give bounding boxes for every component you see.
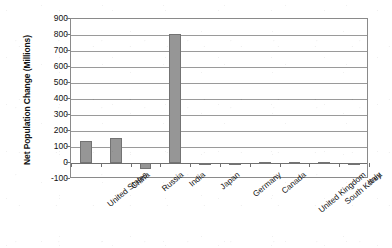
gridline-700 [71, 51, 367, 52]
x-tick-mark [369, 163, 370, 167]
y-tick-label-400: 400 [28, 94, 68, 103]
y-tick-label-900: 900 [28, 14, 68, 23]
y-tick-label-800: 800 [28, 30, 68, 39]
x-tick-mark [280, 163, 281, 167]
x-tick-mark [339, 163, 340, 167]
gridline-300 [71, 115, 367, 116]
y-tick-label-500: 500 [28, 78, 68, 87]
y-tick-label-100: 100 [28, 142, 68, 151]
x-tick-mark [250, 163, 251, 167]
gridline-800 [71, 35, 367, 36]
x-tick-mark [71, 163, 72, 167]
bar [318, 162, 330, 164]
y-tick-label-600: 600 [28, 62, 68, 71]
y-tick-label-300: 300 [28, 110, 68, 119]
bar [140, 163, 152, 169]
bar-chart: Net Population Change (Millions) 9008007… [0, 0, 392, 248]
plot-area [70, 18, 368, 178]
bar [110, 138, 122, 163]
gridline-600 [71, 67, 367, 68]
gridline-200 [71, 131, 367, 132]
x-tick-mark [220, 163, 221, 167]
x-tick-mark [190, 163, 191, 167]
y-tick-label-200: 200 [28, 126, 68, 135]
bar [259, 162, 271, 164]
y-tick-label-0: 0 [28, 158, 68, 167]
bar [229, 163, 241, 165]
gridline-500 [71, 83, 367, 84]
bar [80, 141, 92, 163]
x-tick-mark [101, 163, 102, 167]
x-tick-mark [309, 163, 310, 167]
bar [348, 163, 360, 165]
y-tick-label--100: -100 [28, 174, 68, 183]
y-tick-mark--100 [66, 178, 70, 179]
x-tick-mark [131, 163, 132, 167]
y-tick-label-700: 700 [28, 46, 68, 55]
gridline-400 [71, 99, 367, 100]
bar [169, 34, 181, 163]
x-tick-mark [160, 163, 161, 167]
bar [199, 163, 211, 165]
bar [289, 162, 301, 164]
